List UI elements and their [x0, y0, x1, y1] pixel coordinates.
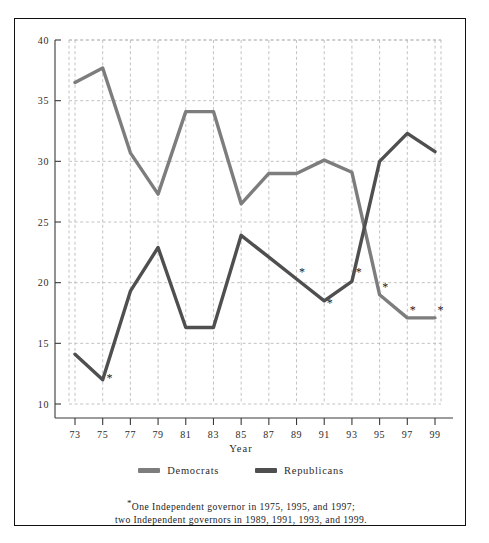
svg-text:10: 10	[38, 399, 49, 410]
svg-text:*: *	[356, 265, 362, 279]
svg-text:*: *	[382, 280, 388, 294]
y-tick-labels: 40353025201510	[38, 35, 49, 410]
svg-text:85: 85	[236, 429, 247, 439]
svg-text:15: 15	[38, 338, 49, 349]
svg-text:97: 97	[402, 429, 413, 439]
chart-figure: 40353025201510 7375777981838587899193959…	[14, 18, 466, 526]
svg-text:81: 81	[180, 429, 191, 439]
chart-legend: Democrats Republicans	[15, 465, 467, 476]
line-chart-svg: 40353025201510 7375777981838587899193959…	[15, 19, 467, 439]
footnote-line-2: two Independent governors in 1989, 1991,…	[115, 514, 367, 525]
svg-text:91: 91	[319, 429, 330, 439]
svg-text:*: *	[410, 303, 416, 317]
svg-text:35: 35	[38, 95, 49, 106]
svg-text:75: 75	[97, 429, 108, 439]
x-tick-marks	[75, 418, 435, 425]
x-axis-title: Year	[15, 443, 467, 454]
plot-area: 40353025201510 7375777981838587899193959…	[15, 19, 467, 439]
legend-item-democrats[interactable]: Democrats	[138, 465, 219, 476]
legend-item-republicans[interactable]: Republicans	[255, 465, 344, 476]
svg-text:99: 99	[429, 429, 440, 439]
asterisk-annotations: *******	[107, 265, 444, 385]
x-tick-labels: 7375777981838587899193959799	[69, 429, 440, 439]
svg-text:40: 40	[38, 35, 49, 46]
svg-text:*: *	[299, 265, 305, 279]
svg-text:83: 83	[208, 429, 219, 439]
legend-swatch-republicans	[255, 468, 277, 473]
svg-text:30: 30	[38, 156, 49, 167]
svg-text:77: 77	[125, 429, 136, 439]
svg-text:25: 25	[38, 217, 49, 228]
footnote: *One Independent governor in 1975, 1995,…	[15, 497, 467, 526]
svg-text:73: 73	[69, 429, 80, 439]
data-series	[75, 68, 435, 380]
svg-text:89: 89	[291, 429, 302, 439]
svg-text:79: 79	[152, 429, 163, 439]
svg-text:*: *	[107, 371, 113, 385]
svg-text:87: 87	[263, 429, 274, 439]
y-tick-marks	[55, 40, 61, 404]
gridlines	[69, 40, 441, 404]
svg-text:93: 93	[346, 429, 357, 439]
legend-label-democrats: Democrats	[167, 465, 219, 476]
axis-lines	[55, 40, 453, 418]
legend-swatch-democrats	[138, 468, 160, 473]
svg-text:95: 95	[374, 429, 385, 439]
svg-text:*: *	[438, 303, 444, 317]
svg-text:20: 20	[38, 277, 49, 288]
svg-text:*: *	[327, 296, 333, 310]
footnote-line-1: One Independent governor in 1975, 1995, …	[132, 501, 355, 512]
legend-label-republicans: Republicans	[284, 465, 344, 476]
